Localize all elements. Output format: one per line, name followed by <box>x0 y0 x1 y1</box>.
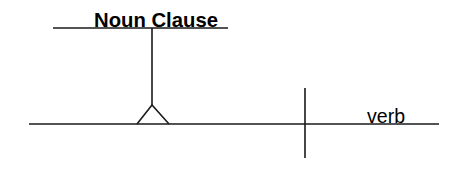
pedestal-base <box>137 105 169 124</box>
noun-clause-label: Noun Clause <box>94 8 218 31</box>
sentence-diagram: Noun Clause verb <box>0 0 462 171</box>
verb-label: verb <box>367 105 405 127</box>
